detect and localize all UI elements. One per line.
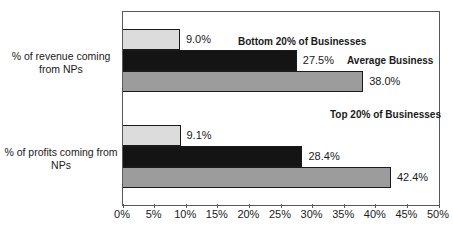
bar-average-business-of-profits-coming-from-nps bbox=[123, 146, 302, 167]
x-axis-tick-label: 25% bbox=[264, 208, 296, 220]
bar-bottom-20-of-businesses-of-profits-coming-from-nps bbox=[123, 125, 181, 146]
category-label-line: % of revenue coming bbox=[2, 50, 120, 63]
bar-chart: % of revenue coming from NPs % of profit… bbox=[0, 0, 453, 234]
x-axis-tick-label: 10% bbox=[169, 208, 201, 220]
x-axis-tick-label: 50% bbox=[422, 208, 453, 220]
bar-value-label: 38.0% bbox=[369, 75, 400, 88]
bar-value-label: 28.4% bbox=[308, 150, 339, 163]
category-label-line: % of profits coming from bbox=[2, 146, 120, 159]
bar-value-label: 9.0% bbox=[186, 33, 211, 46]
bar-bottom-20-of-businesses-of-revenue-coming-from-nps bbox=[123, 29, 180, 50]
bar-average-business-of-revenue-coming-from-nps bbox=[123, 50, 297, 71]
bar-top-20-of-businesses-of-revenue-coming-from-nps bbox=[123, 71, 363, 92]
x-axis-tick-label: 0% bbox=[106, 208, 138, 220]
x-axis-tick-label: 40% bbox=[359, 208, 391, 220]
bar-value-label: 27.5% bbox=[303, 54, 334, 67]
x-axis-tick-label: 20% bbox=[232, 208, 264, 220]
x-axis-tick-label: 30% bbox=[296, 208, 328, 220]
category-label-revenue: % of revenue coming from NPs bbox=[2, 50, 120, 76]
bar-value-label: 42.4% bbox=[397, 171, 428, 184]
series-annotation-bottom-20: Bottom 20% of Businesses bbox=[238, 36, 366, 47]
x-axis-tick-label: 15% bbox=[201, 208, 233, 220]
x-axis-tick-label: 35% bbox=[327, 208, 359, 220]
bar-value-label: 9.1% bbox=[187, 129, 212, 142]
series-annotation-average: Average Business bbox=[347, 55, 433, 66]
x-axis-tick-label: 45% bbox=[390, 208, 422, 220]
category-label-profits: % of profits coming from NPs bbox=[2, 146, 120, 172]
category-label-line: from NPs bbox=[2, 63, 120, 76]
x-axis-tick-label: 5% bbox=[138, 208, 170, 220]
series-annotation-top-20: Top 20% of Businesses bbox=[330, 109, 441, 120]
bar-top-20-of-businesses-of-profits-coming-from-nps bbox=[123, 167, 391, 188]
category-label-line: NPs bbox=[2, 159, 120, 172]
